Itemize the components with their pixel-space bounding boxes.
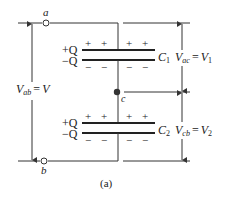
c2-plus-4: + [142,110,148,122]
c1-plus-4: + [142,37,148,49]
c1-minus-2: − [101,61,107,73]
terminal-b-label: b [41,164,47,176]
c1-minus-3: − [126,61,132,73]
c1-plus-2: + [101,37,107,49]
c2-minus-1: − [85,134,91,146]
c2-minus-charge: −Q [62,127,78,141]
c2-plus-3: + [126,110,132,122]
figure-caption: (a) [100,177,113,190]
terminal-a-label: a [43,6,49,18]
c2-minus-2: − [101,134,107,146]
terminal-a [43,20,49,26]
vab-label: Vab=V [16,82,51,97]
c2-plus-1: + [85,110,91,122]
c1-label: C1 [158,50,170,65]
c2-label: C2 [158,123,170,138]
c1-minus-4: − [142,61,148,73]
c1-minus-charge: −Q [62,54,78,68]
c1-plus-1: + [85,37,91,49]
node-c-label: c [121,93,126,104]
c1-minus-1: − [85,61,91,73]
c2-plus-2: + [101,110,107,122]
c2-minus-4: − [142,134,148,146]
vac-label: Vac=V1 [175,50,212,65]
node-c [114,89,120,95]
c2-minus-3: − [126,134,132,146]
series-capacitor-diagram: a + + + + − − − − +Q −Q C1 c + + + + − −… [0,0,227,199]
vcb-label: Vcb=V2 [175,123,212,138]
c1-plus-3: + [126,37,132,49]
